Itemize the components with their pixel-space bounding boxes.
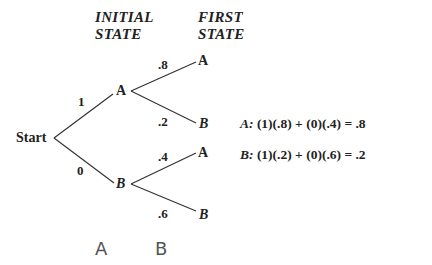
node-first-BA: A bbox=[198, 146, 208, 160]
prob-B-A: .4 bbox=[158, 150, 168, 163]
prob-start-B: 0 bbox=[77, 164, 84, 177]
prob-start-A: 1 bbox=[78, 95, 85, 108]
equation-B-expr: (1)(.2) + (0)(.6) = .2 bbox=[257, 147, 366, 162]
header-initial-line1: INITIAL bbox=[95, 9, 154, 26]
node-start: Start bbox=[16, 131, 46, 145]
header-first-line1: FIRST bbox=[198, 9, 245, 26]
node-first-BB: B bbox=[199, 208, 208, 222]
prob-B-B: .6 bbox=[158, 207, 168, 220]
node-first-AB: B bbox=[199, 117, 208, 131]
handwritten-A: A bbox=[95, 240, 107, 258]
node-first-AA: A bbox=[198, 54, 208, 68]
equation-A: A: (1)(.8) + (0)(.4) = .8 bbox=[240, 117, 366, 131]
header-initial-state: INITIAL STATE bbox=[95, 9, 154, 43]
equation-A-var: A: bbox=[240, 116, 254, 131]
prob-A-B: .2 bbox=[158, 115, 168, 128]
handwritten-B: B bbox=[155, 240, 167, 258]
header-initial-line2: STATE bbox=[95, 26, 154, 43]
node-initial-A: A bbox=[116, 84, 126, 98]
equation-B-var: B: bbox=[240, 147, 254, 162]
equation-B: B: (1)(.2) + (0)(.6) = .2 bbox=[240, 148, 366, 162]
prob-A-A: .8 bbox=[158, 58, 168, 71]
header-first-line2: STATE bbox=[198, 26, 245, 43]
equation-A-expr: (1)(.8) + (0)(.4) = .8 bbox=[257, 116, 366, 131]
node-initial-B: B bbox=[116, 177, 125, 191]
header-first-state: FIRST STATE bbox=[198, 9, 245, 43]
branch-start-to-B bbox=[54, 138, 114, 183]
